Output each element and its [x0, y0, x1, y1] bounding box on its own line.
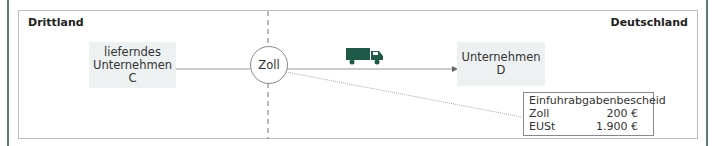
supplier-line1: lieferndes [104, 46, 161, 59]
supplier-line2: Unternehmen [93, 59, 172, 72]
notice-row-value: 200 € [607, 107, 639, 120]
node-customs: Zoll [250, 46, 288, 84]
node-recipient-d: Unternehmen D [457, 42, 545, 86]
notice-row-label: EUSt [529, 120, 555, 133]
recipient-line2: D [497, 64, 506, 77]
notice-row-value: 1.900 € [596, 120, 638, 133]
notice-row-label: Zoll [529, 107, 549, 120]
customs-label: Zoll [258, 58, 279, 72]
notice-title: Einfuhrabgabenbescheid [529, 94, 648, 107]
node-supplier-c: lieferndes Unternehmen C [89, 42, 176, 88]
supplier-line3: C [128, 72, 136, 85]
import-duty-notice: Einfuhrabgabenbescheid Zoll 200 € EUSt 1… [523, 92, 654, 136]
truck-icon [346, 47, 386, 65]
notice-row-zoll: Zoll 200 € [529, 107, 648, 120]
notice-row-eust: EUSt 1.900 € [529, 120, 648, 133]
